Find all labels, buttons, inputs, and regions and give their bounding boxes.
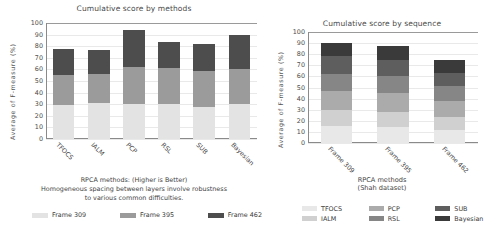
gridline (46, 23, 257, 24)
y-axis-tick-label: 30 (297, 106, 305, 112)
x-axis-tick-label: SUB (195, 141, 210, 156)
legend-swatch (435, 216, 450, 221)
bar-segment-frame-309 (53, 105, 75, 139)
x-axis-tick-label: PCP (124, 141, 138, 155)
legend-label: SUB (454, 205, 467, 213)
legend-item-sub[interactable]: SUB (435, 204, 492, 213)
x-axis-line (46, 138, 257, 139)
x-axis-tick-label: TFOCS (54, 141, 75, 162)
bar-bayesian[interactable] (229, 35, 251, 139)
bar-ialm[interactable] (88, 50, 110, 139)
legend-item-pcp[interactable]: PCP (369, 204, 426, 213)
bar-segment-frame-395 (158, 68, 180, 104)
bar-segment-frame-462 (158, 42, 180, 69)
x-axis-tick-label: RSL (159, 141, 173, 155)
left-caption-line-3: to various common difficulties. (0, 194, 268, 203)
bar-segment-rsl (434, 86, 465, 100)
y-axis-tick-label: 70 (297, 62, 305, 68)
left-chart-title: Cumulative score by methods (0, 4, 268, 13)
gridline (46, 139, 257, 140)
x-axis-tick-label: Frame 309 (327, 145, 357, 175)
right-y-axis-label: Average of F-measure (%) (277, 51, 284, 148)
legend-item-bayesian[interactable]: Bayesian (435, 214, 492, 223)
legend-swatch (120, 213, 136, 218)
bar-segment-frame-395 (193, 71, 215, 107)
left-y-axis-label: Average of F-measure (%) (9, 43, 16, 140)
legend-item-rsl[interactable]: RSL (369, 214, 426, 223)
bar-tfocs[interactable] (53, 49, 75, 139)
legend-item-frame-462[interactable]: Frame 462 (208, 211, 262, 219)
bar-segment-tfocs (321, 126, 352, 143)
bar-segment-pcp (377, 93, 408, 112)
y-axis-tick-label: 10 (297, 129, 305, 135)
bar-segment-frame-309 (158, 104, 180, 139)
y-axis-tick-label: 10 (35, 124, 43, 130)
legend-label: IALM (321, 215, 336, 223)
right-chart-panel: Cumulative score by sequence Average of … (268, 0, 496, 233)
legend-swatch (208, 213, 224, 218)
bar-frame-395[interactable] (377, 46, 408, 143)
legend-swatch (32, 213, 48, 218)
y-axis-tick-label: 40 (297, 95, 305, 101)
bar-frame-462[interactable] (434, 60, 465, 143)
gridline (46, 81, 257, 82)
bar-segment-tfocs (377, 127, 408, 143)
bar-segment-frame-309 (193, 107, 215, 139)
legend-label: Frame 462 (228, 211, 262, 219)
bar-segment-bayesian (321, 43, 352, 56)
legend-swatch (302, 216, 317, 221)
bar-segment-ialm (321, 110, 352, 127)
gridline (46, 116, 257, 117)
bar-segment-frame-462 (193, 44, 215, 71)
x-axis-tick-label: Frame 462 (440, 145, 470, 175)
y-axis-tick-label: 40 (35, 89, 43, 95)
bar-segment-frame-395 (229, 69, 251, 104)
x-axis-tick-label: Frame 395 (383, 145, 413, 175)
bar-segment-tfocs (434, 130, 465, 143)
bar-segment-frame-309 (88, 103, 110, 139)
y-axis-tick-label: 80 (35, 43, 43, 49)
right-plot-area: 0102030405060708090100Frame 309Frame 395… (308, 32, 478, 143)
y-axis-tick-label: 0 (39, 136, 43, 142)
left-legend: Frame 309Frame 395Frame 462 (32, 211, 262, 219)
legend-swatch (369, 216, 384, 221)
bar-segment-frame-395 (88, 74, 110, 103)
bar-segment-pcp (434, 101, 465, 118)
gridline (308, 32, 478, 33)
bar-segment-rsl (321, 74, 352, 91)
bar-segment-frame-309 (229, 104, 251, 139)
y-axis-tick-label: 70 (35, 55, 43, 61)
y-axis-tick-label: 100 (293, 29, 305, 35)
bar-segment-ialm (434, 117, 465, 129)
y-axis-tick-label: 100 (31, 20, 43, 26)
bar-frame-309[interactable] (321, 43, 352, 143)
legend-label: TFOCS (321, 205, 342, 213)
left-chart-panel: Cumulative score by methods Average of F… (0, 0, 268, 233)
left-caption-line-2: Homogeneous spacing between layers invol… (0, 185, 268, 194)
bar-sub[interactable] (193, 44, 215, 139)
legend-label: Frame 309 (52, 211, 86, 219)
bar-segment-bayesian (377, 46, 408, 59)
right-x-axis-label: RPCA methods (Shah dataset) (268, 176, 496, 192)
y-axis-tick-label: 60 (35, 66, 43, 72)
legend-item-ialm[interactable]: IALM (302, 214, 359, 223)
bar-pcp[interactable] (123, 30, 145, 139)
legend-label: PCP (388, 205, 400, 213)
right-chart-title: Cumulative score by sequence (268, 19, 496, 28)
legend-swatch (435, 206, 450, 211)
y-axis-tick-label: 90 (297, 40, 305, 46)
y-axis-tick-label: 30 (35, 101, 43, 107)
x-axis-tick-label: Bayesian (230, 141, 256, 167)
gridline (46, 127, 257, 128)
legend-item-frame-395[interactable]: Frame 395 (120, 211, 174, 219)
gridline (46, 69, 257, 70)
legend-item-frame-309[interactable]: Frame 309 (32, 211, 86, 219)
legend-item-tfocs[interactable]: TFOCS (302, 204, 359, 213)
bar-segment-frame-462 (123, 30, 145, 67)
legend-label: RSL (388, 215, 400, 223)
y-axis-tick-label: 90 (35, 31, 43, 37)
bar-segment-rsl (377, 76, 408, 93)
y-axis-tick-label: 50 (297, 84, 305, 90)
bar-rsl[interactable] (158, 42, 180, 139)
gridline (46, 35, 257, 36)
